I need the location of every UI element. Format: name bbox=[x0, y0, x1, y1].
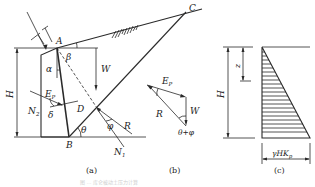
w-arrow-head-icon bbox=[95, 85, 98, 91]
z-label: z bbox=[233, 64, 242, 69]
arrow-head-icon bbox=[44, 45, 48, 51]
panel-a: H bbox=[5, 3, 202, 175]
surface-load-arrow bbox=[27, 12, 52, 50]
panel-b-caption: (b) bbox=[169, 166, 180, 175]
c-h-arrow-bottom-icon bbox=[227, 133, 230, 138]
r-vector bbox=[150, 87, 186, 126]
theta-phi-arc bbox=[179, 116, 186, 118]
point-a-label: A bbox=[55, 36, 63, 46]
ep-label: EP bbox=[44, 89, 56, 100]
ep-vector-head-icon bbox=[180, 94, 186, 98]
panel-c-caption: (c) bbox=[274, 166, 285, 175]
r-label: R bbox=[123, 121, 131, 131]
b-ep-label: EP bbox=[161, 76, 173, 87]
dashed-line-ad bbox=[57, 48, 97, 108]
phi-label: φ bbox=[107, 121, 114, 131]
n2-label: N2 bbox=[27, 106, 40, 117]
h-arrow-top-icon bbox=[16, 48, 19, 53]
slip-surface bbox=[69, 12, 186, 137]
point-b-label: B bbox=[65, 140, 73, 150]
z-arrow-bottom-icon bbox=[242, 76, 245, 81]
n1-label: N1 bbox=[113, 147, 125, 158]
w-label: W bbox=[101, 64, 111, 74]
point-c-label: C bbox=[189, 3, 196, 13]
beta-arc bbox=[77, 43, 78, 48]
n1-extension bbox=[117, 137, 124, 147]
theta-label: θ bbox=[81, 125, 87, 135]
panel-c: H z bbox=[216, 47, 310, 175]
base-arrow-right-icon bbox=[305, 158, 310, 161]
alpha-label: α bbox=[46, 64, 52, 74]
c-h-arrow-top-icon bbox=[227, 47, 230, 52]
z-arrow-top-icon bbox=[242, 47, 245, 52]
h-label: H bbox=[5, 90, 15, 99]
passive-earth-pressure-figure: H bbox=[0, 0, 315, 187]
b-w-label: W bbox=[190, 106, 200, 116]
beta-label: β bbox=[65, 52, 71, 62]
theta-plus-phi-label: θ+φ bbox=[178, 128, 195, 137]
panel-b: EP W R θ+φ (b) bbox=[147, 76, 200, 175]
base-arrow-left-icon bbox=[262, 158, 267, 161]
base-label: γHKp bbox=[272, 149, 293, 160]
h-arrow-bottom-icon bbox=[16, 132, 19, 137]
panel-a-caption: (a) bbox=[86, 166, 97, 175]
figure-caption: 图 … 库仑被动土压力计算 bbox=[80, 179, 138, 186]
b-r-label: R bbox=[155, 109, 163, 119]
point-d-label: D bbox=[76, 104, 84, 114]
delta-label: δ bbox=[48, 110, 53, 120]
c-h-label: H bbox=[216, 90, 226, 99]
